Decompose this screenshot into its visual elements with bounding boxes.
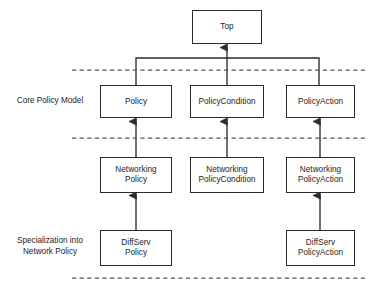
node-diffserv-policy-action-label: DiffServ PolicyAction bbox=[296, 238, 345, 257]
node-diffserv-policy-action[interactable]: DiffServ PolicyAction bbox=[286, 230, 355, 266]
node-top-label: Top bbox=[218, 22, 235, 32]
node-policy-label: Policy bbox=[123, 97, 149, 107]
class-hierarchy-diagram: Top Policy PolicyCondition PolicyAction … bbox=[0, 0, 385, 296]
node-policy-action-label: PolicyAction bbox=[296, 97, 345, 107]
node-top[interactable]: Top bbox=[192, 10, 262, 44]
band-label-specialization-into-network-policy: Specialization into Network Policy bbox=[4, 236, 96, 257]
node-networking-policy-condition-label: Networking PolicyCondition bbox=[196, 165, 257, 184]
node-diffserv-policy[interactable]: DiffServ Policy bbox=[100, 230, 172, 266]
node-networking-policy[interactable]: Networking Policy bbox=[100, 157, 172, 193]
node-networking-policy-label: Networking Policy bbox=[113, 165, 158, 184]
node-diffserv-policy-label: DiffServ Policy bbox=[119, 238, 152, 257]
node-policy-action[interactable]: PolicyAction bbox=[286, 85, 355, 118]
node-networking-policy-action-label: Networking PolicyAction bbox=[296, 165, 345, 184]
node-policy-condition[interactable]: PolicyCondition bbox=[190, 85, 264, 118]
node-networking-policy-condition[interactable]: Networking PolicyCondition bbox=[190, 157, 264, 193]
band-label-core-policy-model: Core Policy Model bbox=[6, 96, 94, 107]
node-networking-policy-action[interactable]: Networking PolicyAction bbox=[286, 157, 355, 193]
node-policy[interactable]: Policy bbox=[100, 85, 172, 118]
node-policy-condition-label: PolicyCondition bbox=[196, 97, 257, 107]
